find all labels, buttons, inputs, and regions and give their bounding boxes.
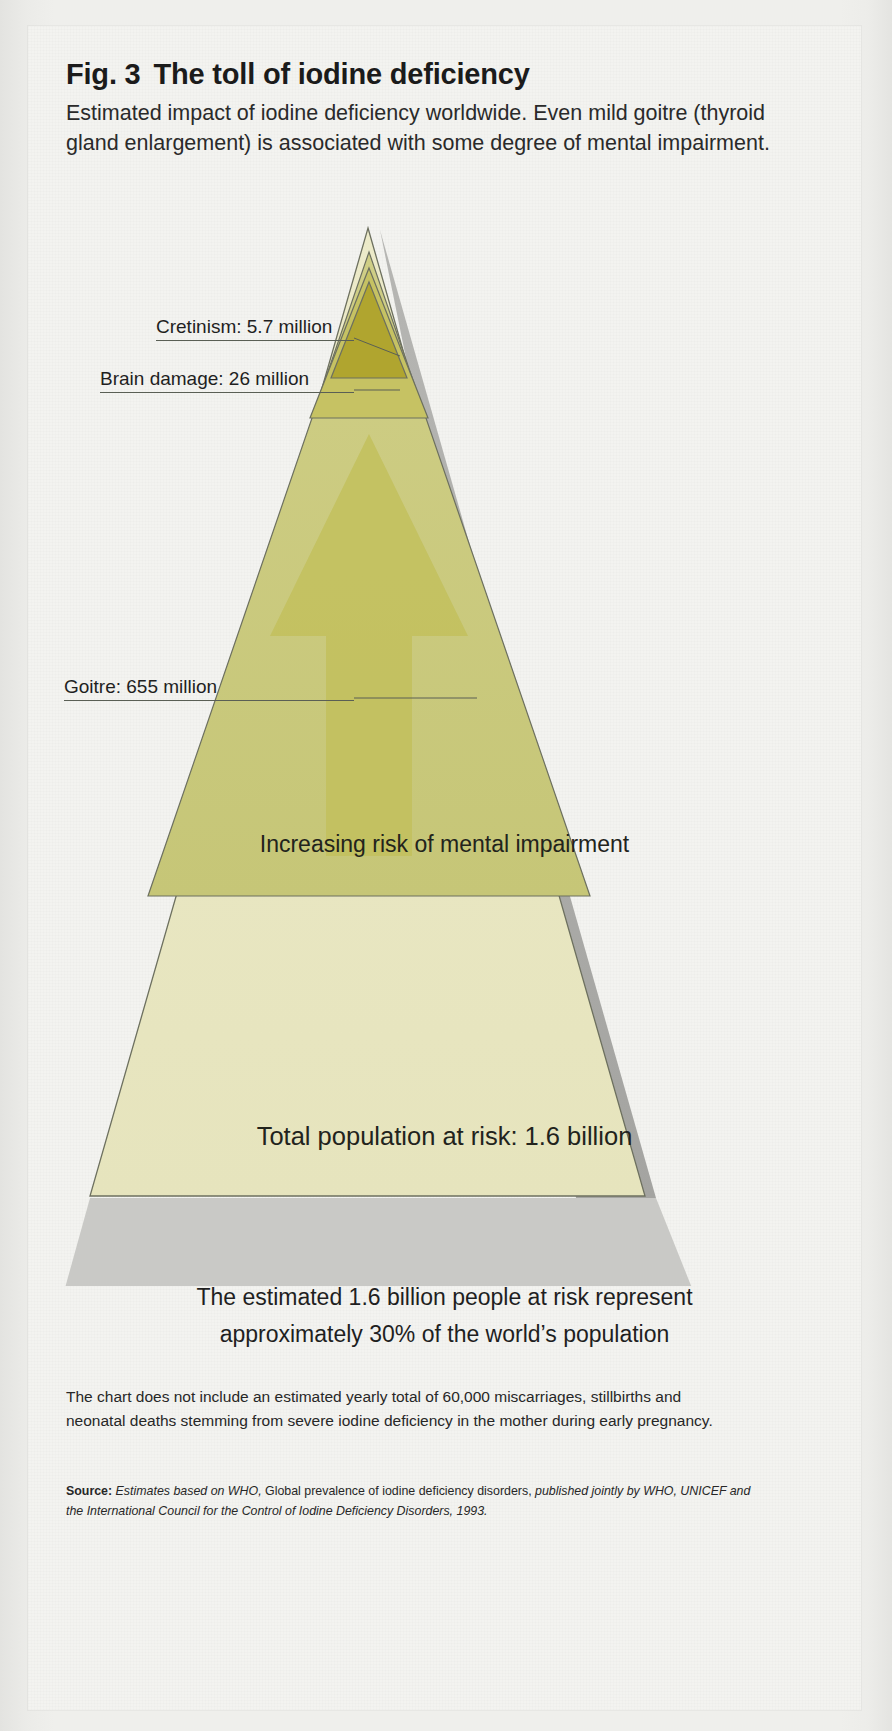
base-band	[40, 1198, 728, 1286]
callout-cretinism-label: Cretinism: 5.7 million	[156, 316, 354, 340]
figure-number: Fig. 3	[66, 58, 141, 90]
base-band-line-2: approximately 30% of the world’s populat…	[28, 1316, 861, 1353]
callout-brain-damage: Brain damage: 26 million	[100, 368, 354, 393]
source-note: Source: Estimates based on WHO, Global p…	[66, 1481, 766, 1521]
base-band-line-1: The estimated 1.6 billion people at risk…	[28, 1279, 861, 1316]
total-population-label: Total population at risk: 1.6 billion	[28, 1122, 861, 1151]
callout-goitre-rule	[64, 700, 354, 701]
callout-goitre: Goitre: 655 million	[64, 676, 354, 701]
callout-cretinism: Cretinism: 5.7 million	[156, 316, 354, 341]
footnote-text: The chart does not include an estimated …	[66, 1385, 726, 1433]
figure-subtitle: Estimated impact of iodine deficiency wo…	[66, 99, 801, 157]
figure-header: Fig. 3The toll of iodine deficiency Esti…	[66, 58, 826, 158]
callout-brain-damage-label: Brain damage: 26 million	[100, 368, 354, 392]
figure-title-text: The toll of iodine deficiency	[154, 58, 530, 90]
source-roman-1: Global prevalence of iodine deficiency d…	[265, 1484, 532, 1498]
source-italic-1: Estimates based on WHO,	[116, 1484, 262, 1498]
callout-cretinism-rule	[156, 340, 354, 341]
base-band-text: The estimated 1.6 billion people at risk…	[28, 1279, 861, 1354]
callout-brain-damage-rule	[100, 392, 354, 393]
pyramid-chart: Cretinism: 5.7 million Brain damage: 26 …	[28, 206, 861, 1286]
page-title: Fig. 3The toll of iodine deficiency	[66, 58, 826, 90]
arrow-label: Increasing risk of mental impairment	[28, 831, 861, 858]
figure-panel: Fig. 3The toll of iodine deficiency Esti…	[28, 26, 861, 1710]
source-label: Source:	[66, 1484, 112, 1498]
callout-goitre-label: Goitre: 655 million	[64, 676, 354, 700]
infographic-page: Fig. 3The toll of iodine deficiency Esti…	[0, 0, 892, 1731]
